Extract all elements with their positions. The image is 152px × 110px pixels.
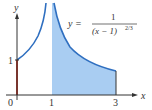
shaded-area-region xyxy=(52,3,116,95)
equation-denominator-base: (x − 1) xyxy=(92,26,117,36)
y-tick-label-1: 1 xyxy=(8,55,13,66)
equation-numerator: 1 xyxy=(111,12,116,22)
y-axis-label: y xyxy=(13,2,19,13)
equation-label: y = 1 (x − 1) 2/3 xyxy=(67,12,137,36)
y-axis-arrow-icon xyxy=(15,13,19,19)
x-axis-label: x xyxy=(140,90,146,101)
x-axis-arrow-icon xyxy=(132,93,138,97)
equation-lhs: y = xyxy=(67,18,82,29)
x-tick-label-1: 1 xyxy=(49,97,54,108)
equation-denominator-exponent: 2/3 xyxy=(125,25,133,31)
x-tick-label-3: 3 xyxy=(113,97,118,108)
function-graph: y x 0 1 3 1 y = 1 (x − 1) 2/3 xyxy=(0,0,152,110)
curve-left-branch xyxy=(17,3,46,60)
origin-label: 0 xyxy=(8,97,13,108)
